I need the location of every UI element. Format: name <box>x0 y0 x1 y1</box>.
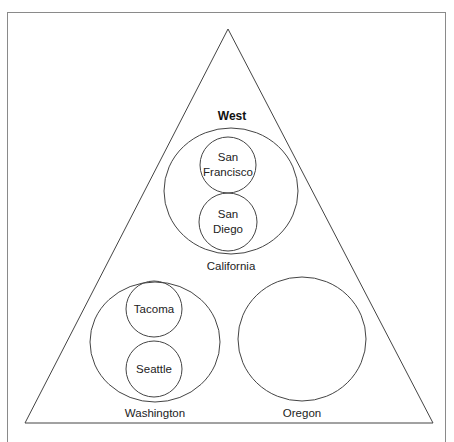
oregon-region <box>238 277 366 401</box>
washington-label: Washington <box>125 406 185 420</box>
san-diego-label-line1: San <box>218 207 238 221</box>
san-francisco-label-line1: San <box>218 150 238 164</box>
seattle-label: Seattle <box>136 362 172 376</box>
oregon-label: Oregon <box>283 406 321 420</box>
san-diego-label-line2: Diego <box>213 222 243 236</box>
washington-region <box>90 282 220 402</box>
san-francisco-label-line2: Francisco <box>203 165 253 179</box>
california-label: California <box>207 259 256 273</box>
west-title: West <box>218 109 246 123</box>
tacoma-label: Tacoma <box>134 302 174 316</box>
